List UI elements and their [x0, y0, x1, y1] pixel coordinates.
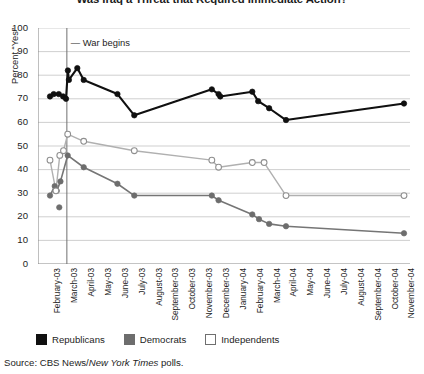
legend-label: Independents — [221, 334, 279, 345]
data-point-independents — [261, 160, 267, 166]
gridlines — [38, 28, 410, 264]
x-tick-label: May-03 — [104, 268, 112, 296]
series-line-democrats — [50, 155, 404, 233]
x-tick-label: October-03 — [188, 268, 196, 310]
data-point-republicans — [255, 98, 260, 103]
series-line-independents — [50, 134, 404, 195]
data-point-democrats — [401, 231, 406, 236]
data-point-independents — [47, 157, 53, 163]
data-point-independents — [131, 148, 137, 154]
y-tick-label: 20 — [0, 211, 28, 221]
x-tick-label: December-03 — [222, 268, 230, 318]
plot-svg — [38, 28, 410, 264]
data-point-independents — [216, 164, 222, 170]
data-point-republicans — [132, 113, 137, 118]
war-begins-text: War begins — [83, 37, 130, 48]
data-point-democrats — [256, 216, 261, 221]
chart-legend: RepublicansDemocratsIndependents — [36, 334, 279, 345]
data-point-democrats — [266, 221, 271, 226]
data-point-republicans — [250, 89, 255, 94]
data-point-independents — [209, 157, 215, 163]
data-point-republicans — [75, 65, 80, 70]
y-tick-label: 50 — [0, 141, 28, 151]
data-point-democrats — [283, 224, 288, 229]
data-point-republicans — [218, 94, 223, 99]
y-tick-label: 40 — [0, 164, 28, 174]
y-tick-label: 90 — [0, 46, 28, 56]
data-point-republicans — [51, 91, 56, 96]
x-tick-label: November-04 — [407, 268, 415, 318]
data-point-democrats — [57, 205, 62, 210]
series-line-republicans — [50, 68, 404, 120]
y-tick-label: 0 — [0, 259, 28, 269]
x-tick-label: April-03 — [87, 268, 95, 297]
x-tick-label: July-03 — [138, 268, 146, 295]
war-begins-leader-line: — — [71, 37, 83, 48]
data-point-independents — [65, 131, 71, 137]
data-point-democrats — [209, 193, 214, 198]
data-point-republicans — [266, 106, 271, 111]
y-tick-label: 30 — [0, 188, 28, 198]
data-point-republicans — [66, 77, 71, 82]
source-prefix: Source: CBS News/ — [4, 357, 89, 368]
x-tick-label: August-04 — [357, 268, 365, 306]
legend-swatch-independents — [205, 334, 216, 345]
x-tick-label: April-04 — [289, 268, 297, 297]
data-point-republicans — [65, 68, 70, 73]
data-point-republicans — [63, 96, 68, 101]
x-tick-label: May-04 — [306, 268, 314, 296]
data-point-republicans — [81, 77, 86, 82]
chart-figure: Was Iraq a Threat that Required Immediat… — [0, 0, 424, 374]
legend-label: Democrats — [140, 334, 186, 345]
legend-entry: Democrats — [124, 334, 186, 345]
data-point-democrats — [250, 212, 255, 217]
data-point-democrats — [58, 179, 63, 184]
x-tick-label: January-04 — [239, 268, 247, 310]
x-tick-label: August-03 — [155, 268, 163, 306]
data-point-independents — [81, 138, 87, 144]
data-point-democrats — [216, 198, 221, 203]
x-tick-label: March-04 — [273, 268, 281, 303]
data-point-independents — [53, 188, 59, 194]
legend-entry: Independents — [205, 334, 279, 345]
data-point-democrats — [81, 165, 86, 170]
x-tick-label: March-03 — [70, 268, 78, 303]
y-tick-label: 10 — [0, 235, 28, 245]
source-note: Source: CBS News/New York Times polls. — [4, 357, 183, 368]
source-suffix: polls. — [158, 357, 183, 368]
data-point-democrats — [65, 153, 70, 158]
y-tick-label: 60 — [0, 117, 28, 127]
x-tick-label: September-04 — [374, 268, 382, 321]
data-point-democrats — [132, 193, 137, 198]
data-point-independents — [401, 193, 407, 199]
legend-label: Republicans — [52, 334, 105, 345]
x-tick-label: July-04 — [340, 268, 348, 295]
data-point-republicans — [283, 117, 288, 122]
x-tick-label: November-03 — [205, 268, 213, 318]
plot-area: Percent “Yes” 0102030405060708090100 Feb… — [38, 28, 410, 264]
y-tick-label: 70 — [0, 93, 28, 103]
x-tick-label: February-04 — [256, 268, 264, 313]
source-publication: New York Times — [89, 357, 159, 368]
data-series-layer — [47, 65, 407, 236]
data-point-independents — [61, 148, 67, 154]
data-point-republicans — [401, 101, 406, 106]
data-point-independents — [283, 193, 289, 199]
war-begins-annotation: — War begins — [71, 37, 130, 48]
legend-swatch-democrats — [124, 334, 135, 345]
x-tick-label: June-04 — [323, 268, 331, 298]
data-point-republicans — [209, 87, 214, 92]
legend-entry: Republicans — [36, 334, 105, 345]
x-tick-label: February-03 — [53, 268, 61, 313]
x-tick-label: October-04 — [391, 268, 399, 310]
x-tick-label: June-03 — [121, 268, 129, 298]
data-point-republicans — [115, 91, 120, 96]
data-point-independents — [249, 160, 255, 166]
data-point-democrats — [47, 193, 52, 198]
y-tick-label: 80 — [0, 70, 28, 80]
data-point-democrats — [115, 181, 120, 186]
x-tick-label: September-03 — [171, 268, 179, 321]
y-tick-label: 100 — [0, 23, 28, 33]
chart-title: Was Iraq a Threat that Required Immediat… — [0, 0, 424, 5]
legend-swatch-republicans — [36, 334, 47, 345]
